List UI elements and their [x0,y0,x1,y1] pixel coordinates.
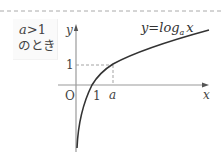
condition-caption: のとき [18,38,56,53]
y-axis-label: y [66,24,73,36]
x-tick-a: a [109,89,116,101]
x-axis-arrow-icon [202,83,209,88]
condition-text: a>1 [19,22,46,37]
curve-base: a [180,28,185,37]
curve-equation-label: y=logax [141,21,194,40]
curve-lhs: y=log [141,20,180,35]
origin-label: O [65,90,75,102]
y-tick-1: 1 [66,59,74,71]
condition-relation: >1 [27,22,46,37]
condition-variable: a [19,22,27,37]
curve-arg: x [186,20,193,35]
x-tick-1: 1 [93,90,101,102]
x-axis-label: x [203,89,210,101]
logarithm-graph-figure: a>1 のとき y 1 O 1 a x y=logax [0,0,222,160]
y-axis-arrow-icon [74,24,78,31]
